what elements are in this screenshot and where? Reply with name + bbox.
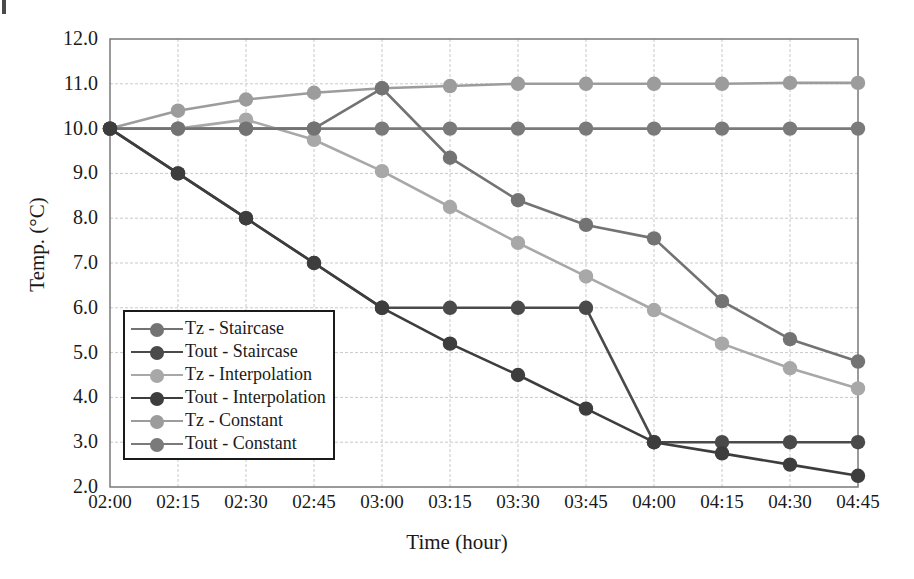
- figure: 12.011.010.09.08.07.06.05.04.03.02.0 02:…: [0, 0, 914, 579]
- legend-marker-icon: [131, 434, 183, 454]
- data-point: [851, 381, 865, 395]
- legend: Tz - StaircaseTout - StaircaseTz - Inter…: [123, 310, 335, 460]
- legend-marker-icon: [131, 411, 183, 431]
- data-point: [851, 469, 865, 483]
- legend-label: Tout - Constant: [183, 434, 297, 453]
- data-point: [443, 79, 457, 93]
- data-point: [307, 256, 321, 270]
- data-point: [647, 303, 661, 317]
- data-point: [851, 121, 865, 135]
- data-point: [783, 457, 797, 471]
- data-point: [579, 269, 593, 283]
- legend-label: Tz - Interpolation: [183, 365, 312, 384]
- data-point: [715, 294, 729, 308]
- data-point: [443, 151, 457, 165]
- data-point: [375, 121, 389, 135]
- x-axis-title: Time (hour): [0, 530, 914, 555]
- data-point: [239, 92, 253, 106]
- data-point: [783, 332, 797, 346]
- data-point: [307, 86, 321, 100]
- data-point: [851, 76, 865, 90]
- legend-marker-icon: [131, 365, 183, 385]
- legend-label: Tout - Interpolation: [183, 388, 326, 407]
- chart-plot-area: 12.011.010.09.08.07.06.05.04.03.02.0 02:…: [0, 0, 914, 579]
- data-point: [579, 301, 593, 315]
- data-point: [715, 121, 729, 135]
- data-point: [239, 211, 253, 225]
- data-point: [511, 121, 525, 135]
- data-point: [443, 336, 457, 350]
- y-tick-label: 12.0: [26, 28, 98, 48]
- y-tick-label: 4.0: [26, 386, 98, 406]
- data-point: [579, 218, 593, 232]
- data-point: [851, 354, 865, 368]
- y-tick-label: 3.0: [26, 431, 98, 451]
- data-point: [511, 236, 525, 250]
- x-tick-label: 04:45: [813, 492, 903, 512]
- legend-marker-icon: [131, 319, 183, 339]
- data-point: [715, 77, 729, 91]
- y-axis-title: Temp. (°C): [25, 135, 50, 355]
- data-point: [171, 121, 185, 135]
- data-point: [443, 200, 457, 214]
- data-point: [851, 435, 865, 449]
- data-point: [647, 121, 661, 135]
- data-point: [579, 121, 593, 135]
- data-point: [715, 446, 729, 460]
- data-point: [239, 121, 253, 135]
- data-point: [783, 76, 797, 90]
- data-point: [783, 121, 797, 135]
- legend-marker-icon: [131, 342, 183, 362]
- data-point: [647, 231, 661, 245]
- data-point: [307, 121, 321, 135]
- legend-item: Tz - Staircase: [125, 317, 333, 340]
- legend-label: Tz - Staircase: [183, 319, 284, 338]
- legend-label: Tout - Staircase: [183, 342, 298, 361]
- data-point: [579, 401, 593, 415]
- data-point: [375, 81, 389, 95]
- data-point: [647, 77, 661, 91]
- legend-item: Tz - Constant: [125, 409, 333, 432]
- data-point: [375, 301, 389, 315]
- data-point: [783, 361, 797, 375]
- legend-marker-icon: [131, 388, 183, 408]
- data-point: [443, 301, 457, 315]
- data-point: [375, 164, 389, 178]
- data-point: [443, 121, 457, 135]
- data-point: [171, 166, 185, 180]
- data-point: [715, 336, 729, 350]
- data-point: [579, 77, 593, 91]
- legend-item: Tout - Interpolation: [125, 386, 333, 409]
- data-point: [171, 103, 185, 117]
- data-point: [103, 121, 117, 135]
- data-point: [511, 368, 525, 382]
- y-tick-label: 11.0: [26, 73, 98, 93]
- legend-item: Tout - Staircase: [125, 340, 333, 363]
- data-point: [647, 435, 661, 449]
- data-point: [511, 301, 525, 315]
- series-tz-constant: [103, 76, 865, 136]
- data-point: [511, 193, 525, 207]
- legend-item: Tout - Constant: [125, 432, 333, 455]
- legend-item: Tz - Interpolation: [125, 363, 333, 386]
- data-point: [783, 435, 797, 449]
- data-point: [511, 77, 525, 91]
- legend-label: Tz - Constant: [183, 411, 283, 430]
